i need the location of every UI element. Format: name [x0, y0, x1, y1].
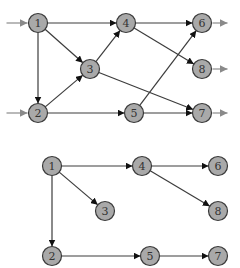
node-5: 5: [125, 104, 144, 123]
node-label: 7: [199, 107, 206, 120]
node-label: 8: [215, 205, 222, 218]
node-label: 1: [49, 160, 56, 173]
node-label: 5: [147, 250, 154, 263]
node-label: 3: [102, 205, 109, 218]
edge-3-to-7: [99, 72, 193, 109]
node-label: 6: [199, 17, 206, 30]
node-2: 2: [29, 104, 48, 123]
node-label: 4: [139, 160, 146, 173]
node-3: 3: [96, 202, 115, 221]
node-1: 1: [43, 157, 62, 176]
edge-4-to-8: [150, 171, 210, 206]
node-label: 6: [215, 160, 222, 173]
node-label: 1: [35, 17, 42, 30]
dependency-graph: 12345678: [7, 14, 228, 123]
node-1: 1: [29, 14, 48, 33]
edge-1-to-3: [45, 29, 83, 62]
node-8: 8: [193, 60, 212, 79]
edge-2-to-3: [45, 75, 82, 107]
node-4: 4: [133, 157, 152, 176]
node-label: 3: [87, 63, 94, 76]
spanning-tree: 12345678: [43, 157, 228, 266]
node-6: 6: [193, 14, 212, 33]
node-7: 7: [209, 247, 228, 266]
edge-5-to-6: [140, 31, 197, 106]
node-label: 4: [123, 17, 130, 30]
node-label: 5: [131, 107, 138, 120]
node-4: 4: [117, 14, 136, 33]
node-2: 2: [43, 247, 62, 266]
node-6: 6: [209, 157, 228, 176]
node-3: 3: [81, 60, 100, 79]
node-5: 5: [141, 247, 160, 266]
node-7: 7: [193, 104, 212, 123]
node-label: 7: [215, 250, 222, 263]
node-label: 2: [35, 107, 42, 120]
node-8: 8: [209, 202, 228, 221]
edge-1-to-3: [59, 172, 98, 205]
edge-3-to-4: [96, 30, 120, 61]
diagram-canvas: 12345678 12345678: [0, 0, 240, 268]
node-label: 2: [49, 250, 56, 263]
node-label: 8: [199, 63, 206, 76]
